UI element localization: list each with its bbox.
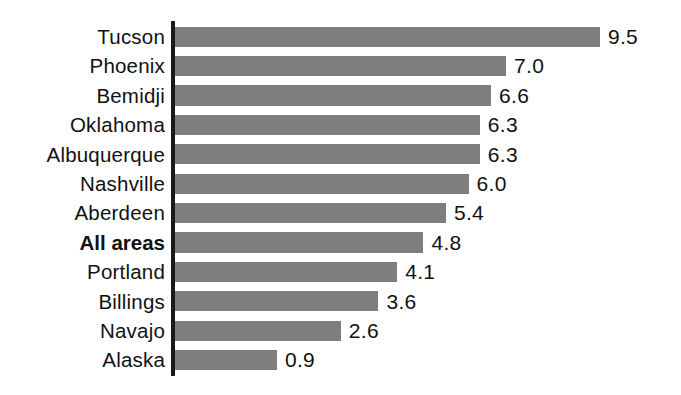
bar-row: Billings3.6 bbox=[0, 287, 681, 316]
bar-row: Albuquerque6.3 bbox=[0, 140, 681, 169]
bar bbox=[175, 203, 446, 223]
bar bbox=[175, 262, 397, 282]
bar-value-label: 2.6 bbox=[349, 316, 379, 345]
bar-value-label: 6.3 bbox=[488, 110, 518, 139]
category-label: Aberdeen bbox=[74, 198, 165, 227]
bar-value-label: 6.6 bbox=[499, 81, 529, 110]
bar-row: Bemidji6.6 bbox=[0, 81, 681, 110]
bar-row: Tucson9.5 bbox=[0, 22, 681, 51]
category-label: Oklahoma bbox=[70, 110, 165, 139]
bar-value-label: 4.8 bbox=[431, 228, 461, 257]
category-label: Nashville bbox=[80, 169, 165, 198]
bar-row: Oklahoma6.3 bbox=[0, 110, 681, 139]
bar-row: Phoenix7.0 bbox=[0, 51, 681, 80]
bar-value-label: 7.0 bbox=[514, 51, 544, 80]
bar-value-label: 9.5 bbox=[608, 22, 638, 51]
category-label: Bemidji bbox=[96, 81, 165, 110]
bar bbox=[175, 350, 277, 370]
bar-row: Aberdeen5.4 bbox=[0, 198, 681, 227]
bar-chart: Tucson9.5Phoenix7.0Bemidji6.6Oklahoma6.3… bbox=[0, 0, 681, 395]
bar-row: Nashville6.0 bbox=[0, 169, 681, 198]
bar-value-label: 6.3 bbox=[488, 140, 518, 169]
bar bbox=[175, 291, 378, 311]
bar bbox=[175, 85, 491, 105]
category-label: Phoenix bbox=[90, 51, 165, 80]
bar-value-label: 3.6 bbox=[386, 287, 416, 316]
bar bbox=[175, 56, 506, 76]
bar-value-label: 4.1 bbox=[405, 257, 435, 286]
bar bbox=[175, 174, 469, 194]
bar bbox=[175, 115, 480, 135]
bar bbox=[175, 232, 423, 252]
bar-value-label: 5.4 bbox=[454, 198, 484, 227]
bar bbox=[175, 27, 600, 47]
category-label: Billings bbox=[98, 287, 165, 316]
category-label: All areas bbox=[80, 228, 165, 257]
category-label: Tucson bbox=[97, 22, 165, 51]
bar bbox=[175, 144, 480, 164]
category-label: Albuquerque bbox=[47, 140, 165, 169]
category-label: Navajo bbox=[100, 316, 165, 345]
bar bbox=[175, 321, 341, 341]
bar-value-label: 6.0 bbox=[477, 169, 507, 198]
category-label: Portland bbox=[87, 257, 165, 286]
bar-row: Portland4.1 bbox=[0, 257, 681, 286]
bar-value-label: 0.9 bbox=[285, 345, 315, 374]
bar-row: All areas4.8 bbox=[0, 228, 681, 257]
category-label: Alaska bbox=[102, 345, 165, 374]
bar-row: Alaska0.9 bbox=[0, 345, 681, 374]
bar-row: Navajo2.6 bbox=[0, 316, 681, 345]
